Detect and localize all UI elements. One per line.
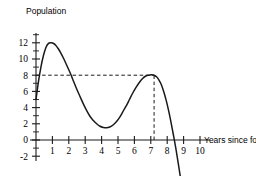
x-tick-label: 8 xyxy=(165,146,170,156)
x-tick-label: 6 xyxy=(132,146,137,156)
x-tick-label: 5 xyxy=(116,146,121,156)
y-tick-label: 2 xyxy=(23,119,28,129)
x-axis-title: Years since founded xyxy=(204,135,256,145)
x-tick-label: 7 xyxy=(148,146,153,156)
x-tick-label: 3 xyxy=(83,146,88,156)
x-axis-tick-labels: 12345678910 xyxy=(50,146,205,156)
axes-group xyxy=(30,33,210,161)
x-tick-label: 2 xyxy=(66,146,71,156)
y-axis-tick-labels: -2024681012 xyxy=(19,38,29,161)
population-chart: -2024681012 12345678910 Population Years… xyxy=(0,0,256,176)
x-tick-label: 10 xyxy=(195,146,205,156)
y-tick-label: 4 xyxy=(23,103,28,113)
y-tick-label: -2 xyxy=(20,152,28,162)
y-tick-label: 12 xyxy=(19,38,29,48)
x-tick-label: 4 xyxy=(99,146,104,156)
y-tick-label: 0 xyxy=(23,135,28,145)
x-tick-label: 9 xyxy=(181,146,186,156)
y-tick-label: 10 xyxy=(19,54,29,64)
y-tick-label: 8 xyxy=(23,71,28,81)
series-line-population xyxy=(36,43,184,176)
x-tick-label: 1 xyxy=(50,146,55,156)
y-tick-label: 6 xyxy=(23,87,28,97)
chart-canvas: -2024681012 12345678910 Population Years… xyxy=(0,0,256,176)
guide-lines xyxy=(36,75,154,140)
data-series xyxy=(36,43,184,176)
y-axis-title: Population xyxy=(26,6,66,16)
